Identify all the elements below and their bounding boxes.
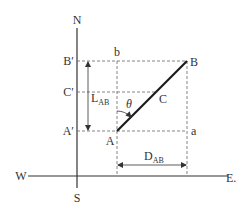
latitude-departure-diagram: N S W E. B′ C′ A′ b B C A a θ LAB DAB (0, 0, 248, 214)
departure-label-sub: AB (153, 156, 164, 165)
point-A-label: A (106, 134, 115, 148)
point-b-lower-label: b (114, 45, 120, 59)
latitude-label-main: L (91, 91, 98, 105)
departure-label: DAB (144, 149, 164, 165)
segment-ab (117, 61, 187, 131)
departure-label-main: D (144, 149, 153, 163)
north-label: N (73, 13, 82, 27)
latitude-label-sub: AB (98, 98, 109, 107)
c-prime-label: C′ (63, 85, 74, 99)
point-B-label: B (190, 55, 198, 69)
south-label: S (74, 191, 81, 205)
a-prime-label: A′ (63, 124, 75, 138)
b-prime-label: B′ (63, 54, 74, 68)
west-label: W (15, 169, 27, 183)
latitude-label: LAB (91, 91, 109, 107)
angle-theta-label: θ (126, 97, 132, 111)
point-C-label: C (159, 92, 167, 106)
angle-theta-arc (117, 111, 131, 117)
point-a-lower-label: a (191, 124, 197, 138)
east-label: E. (226, 171, 236, 185)
